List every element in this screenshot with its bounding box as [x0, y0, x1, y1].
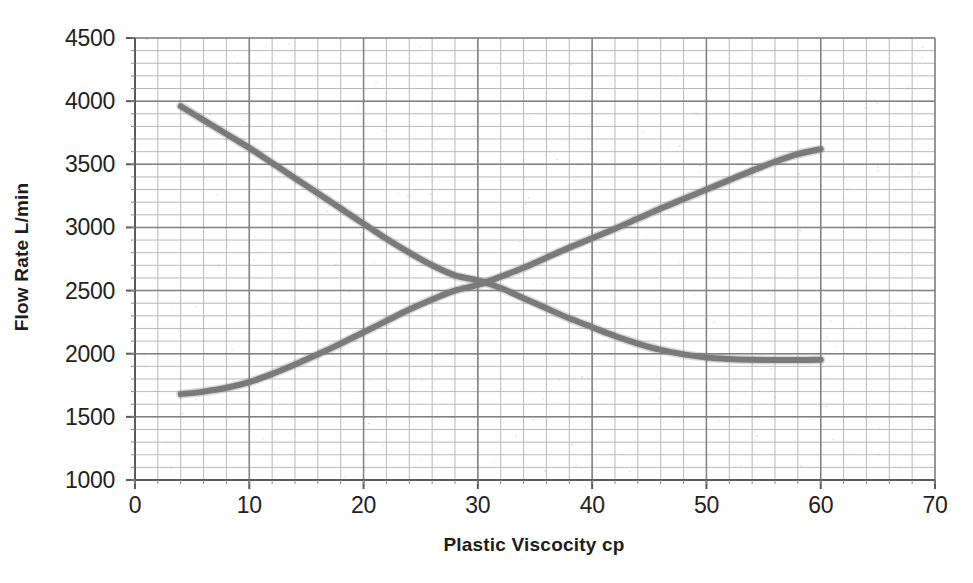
plot-area: [0, 0, 973, 583]
chart-figure: Flow Rate L/min Plastic Viscocity cp 100…: [0, 0, 973, 583]
